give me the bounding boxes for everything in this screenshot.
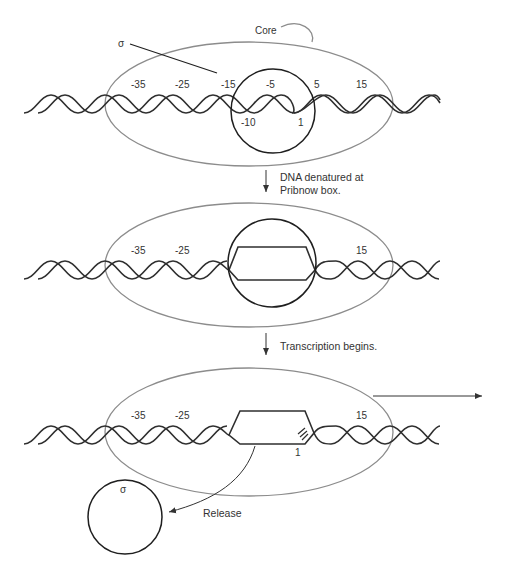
position-label: 5	[314, 79, 320, 90]
position-label: 1	[295, 447, 301, 458]
position-label: 1	[298, 117, 304, 128]
position-label: -35	[131, 410, 146, 421]
position-label: -5	[266, 79, 275, 90]
sigma-label-pointer	[130, 44, 217, 73]
position-label: -35	[131, 79, 146, 90]
position-label: 15	[356, 245, 368, 256]
dna-double-helix	[24, 247, 440, 280]
step-1-caption-line-1: DNA denatured at	[280, 171, 364, 183]
core-label: Core	[255, 25, 277, 36]
position-label: -25	[175, 245, 190, 256]
core-label-pointer	[281, 24, 313, 42]
transcription-diagram: Core σ -35 -25 -15 -5 5 15 -10 1 DNA den…	[0, 0, 507, 571]
sigma-label: σ	[120, 484, 127, 495]
panel-3-elongation: -35 -25 15 1 Release σ	[24, 368, 482, 554]
position-label: -25	[175, 410, 190, 421]
position-label: 15	[356, 79, 368, 90]
panel-2-open-complex: -35 -25 15	[24, 203, 440, 327]
release-arrow	[169, 446, 255, 512]
dna-double-helix	[24, 411, 440, 444]
position-label: -10	[241, 117, 256, 128]
position-label: 15	[356, 410, 368, 421]
core-enzyme-ellipse	[105, 42, 393, 166]
position-label: -15	[221, 79, 236, 90]
release-label: Release	[203, 507, 242, 519]
sigma-label: σ	[118, 38, 125, 49]
panel-1-holoenzyme-binding: Core σ -35 -25 -15 -5 5 15 -10 1	[24, 24, 440, 166]
sigma-factor-circle	[228, 219, 316, 307]
position-label: -25	[175, 79, 190, 90]
step-2-caption: Transcription begins.	[280, 340, 377, 352]
step-1-caption-line-2: Pribnow box.	[280, 184, 341, 196]
rna-transcript-icon	[298, 428, 308, 440]
position-label: -35	[131, 245, 146, 256]
